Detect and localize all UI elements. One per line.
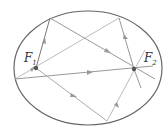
focus-f1-label: F1 [23,51,37,67]
ellipse-reflection-diagram: F1 F2 [0,0,168,131]
ray-f2-extension [134,69,141,88]
focus-f2-label: F2 [143,51,157,67]
ray-top-right-to-f2 [119,18,134,69]
arrow-icon [87,70,93,75]
focus-f2-point [132,67,136,71]
ray-bottom-to-f2 [107,50,145,121]
arrow-icon [104,48,111,53]
arrow-icon [70,93,77,97]
arrowheads [30,34,128,108]
